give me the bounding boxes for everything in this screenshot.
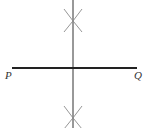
construction-diagram: P Q <box>0 0 149 128</box>
point-p-label: P <box>4 69 12 81</box>
point-q-label: Q <box>134 69 142 81</box>
